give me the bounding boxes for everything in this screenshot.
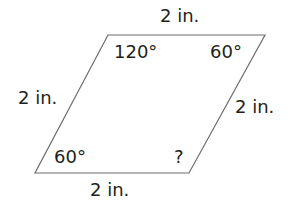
side-label-left: 2 in.	[18, 89, 57, 107]
angle-label-bottom-right-unknown: ?	[174, 148, 184, 166]
side-label-bottom: 2 in.	[90, 181, 129, 199]
angle-label-bottom-left: 60°	[54, 148, 86, 166]
angle-label-top-right: 60°	[210, 43, 242, 61]
side-label-right: 2 in.	[235, 98, 274, 116]
rhombus-diagram: 2 in. 2 in. 2 in. 2 in. 120° 60° 60° ?	[0, 0, 299, 216]
side-label-top: 2 in.	[160, 7, 199, 25]
angle-label-top-left: 120°	[114, 43, 157, 61]
